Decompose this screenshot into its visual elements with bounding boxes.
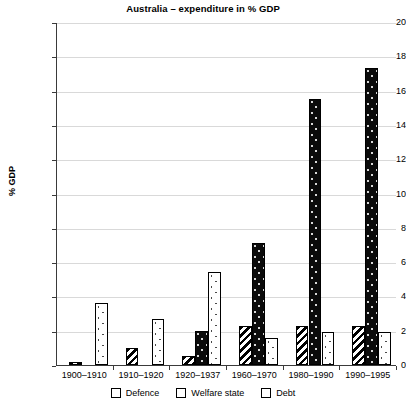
bar-group bbox=[239, 23, 278, 365]
chart-title: Australia – expenditure in % GDP bbox=[0, 3, 406, 14]
x-tick-label: 1910–1920 bbox=[113, 370, 170, 380]
y-axis-title: % GDP bbox=[7, 151, 17, 211]
bar-defence bbox=[182, 356, 195, 365]
legend-label: Defence bbox=[126, 388, 160, 398]
bar-debt bbox=[208, 272, 221, 365]
bar-welfare bbox=[195, 331, 208, 365]
bar-defence bbox=[126, 348, 139, 365]
bar-defence bbox=[239, 326, 252, 365]
x-tick-mark bbox=[396, 366, 397, 370]
bar-debt bbox=[152, 319, 165, 365]
bar-group bbox=[126, 23, 165, 365]
bar-welfare bbox=[309, 99, 322, 365]
bar-debt bbox=[265, 338, 278, 365]
x-tick-label: 1920–1937 bbox=[169, 370, 226, 380]
bar-welfare bbox=[252, 243, 265, 365]
x-tick-label: 1900–1910 bbox=[56, 370, 113, 380]
legend-label: Welfare state bbox=[191, 388, 244, 398]
bar-welfare bbox=[365, 68, 378, 365]
legend-item-welfare: Welfare state bbox=[176, 388, 244, 398]
bar-debt bbox=[378, 332, 391, 365]
legend-swatch-debt bbox=[261, 388, 271, 398]
x-tick-label: 1980–1990 bbox=[283, 370, 340, 380]
bar-group bbox=[69, 23, 108, 365]
legend-label: Debt bbox=[276, 388, 295, 398]
x-tick-label: 1990–1995 bbox=[339, 370, 396, 380]
legend-item-debt: Debt bbox=[261, 388, 295, 398]
bar-defence bbox=[296, 326, 309, 365]
y-tick-mark bbox=[52, 366, 56, 367]
chart-container: Australia – expenditure in % GDP % GDP 0… bbox=[0, 0, 406, 411]
bar-group bbox=[352, 23, 391, 365]
legend-swatch-welfare bbox=[176, 388, 186, 398]
bar-debt bbox=[95, 303, 108, 365]
x-tick-label: 1960–1970 bbox=[226, 370, 283, 380]
legend-swatch-defence bbox=[111, 388, 121, 398]
bar-defence bbox=[352, 326, 365, 365]
legend-item-defence: Defence bbox=[111, 388, 160, 398]
chart-legend: DefenceWelfare stateDebt bbox=[0, 388, 406, 398]
bar-defence bbox=[69, 362, 82, 365]
bars-layer bbox=[57, 23, 396, 365]
plot-area bbox=[56, 23, 396, 366]
bar-group bbox=[296, 23, 335, 365]
bar-group bbox=[182, 23, 221, 365]
bar-debt bbox=[322, 332, 335, 365]
